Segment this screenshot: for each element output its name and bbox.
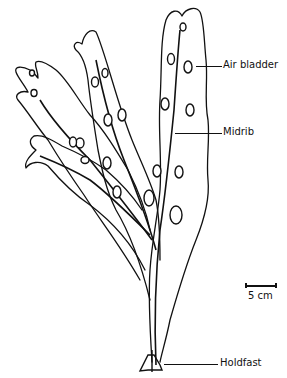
holdfast-leader xyxy=(164,364,218,365)
scale-bar-tick-right xyxy=(275,283,277,288)
label-holdfast: Holdfast xyxy=(220,358,262,368)
label-midrib: Midrib xyxy=(223,127,254,137)
frond-right xyxy=(149,9,208,362)
midrib-lower xyxy=(40,156,150,235)
scale-bar xyxy=(245,285,276,287)
scale-bar-tick-left xyxy=(245,283,247,288)
midrib-middle xyxy=(96,60,156,250)
seaweed-drawing xyxy=(0,0,287,378)
scale-bar-label: 5 cm xyxy=(248,291,273,301)
midrib-leader xyxy=(175,133,222,134)
air-bladder-leader xyxy=(196,66,222,67)
air-bladder-shape xyxy=(184,61,192,73)
label-air-bladder: Air bladder xyxy=(223,60,278,70)
frond-middle xyxy=(74,31,160,300)
